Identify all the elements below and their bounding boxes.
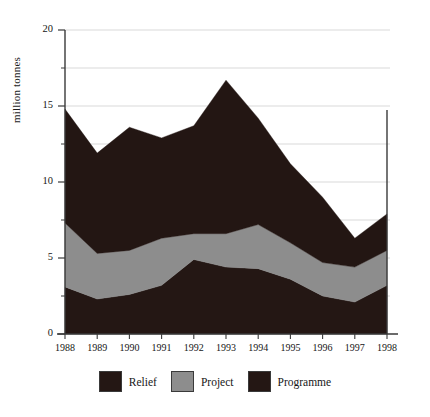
legend-item-project[interactable]: Project bbox=[171, 371, 234, 392]
legend-swatch-project bbox=[171, 371, 194, 392]
y-tick-label-20: 20 bbox=[27, 23, 53, 34]
y-tick-label-0: 0 bbox=[27, 327, 53, 338]
legend-swatch-relief bbox=[99, 371, 122, 392]
legend-label-project: Project bbox=[201, 376, 234, 388]
legend-label-programme: Programme bbox=[278, 376, 332, 388]
chart-legend: ReliefProjectProgramme bbox=[0, 371, 430, 392]
stacked-area-chart: million tonnes 20151050 1988198919901991… bbox=[0, 0, 430, 417]
series-group bbox=[65, 80, 387, 334]
chart-plot-area bbox=[0, 0, 430, 417]
legend-item-relief[interactable]: Relief bbox=[99, 371, 157, 392]
legend-item-programme[interactable]: Programme bbox=[248, 371, 332, 392]
y-tick-label-10: 10 bbox=[27, 175, 53, 186]
x-tick-label-1998: 1998 bbox=[367, 342, 407, 353]
legend-label-relief: Relief bbox=[129, 376, 157, 388]
legend-swatch-programme bbox=[248, 371, 271, 392]
y-axis-label: million tonnes bbox=[10, 30, 22, 150]
y-tick-label-5: 5 bbox=[27, 251, 53, 262]
y-tick-label-15: 15 bbox=[27, 99, 53, 110]
